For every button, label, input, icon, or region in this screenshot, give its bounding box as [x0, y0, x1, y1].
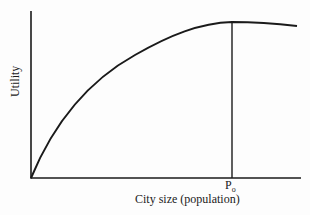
x-axis-label: City size (population)	[135, 192, 240, 207]
utility-curve	[31, 22, 297, 178]
p0-main: P	[225, 178, 232, 192]
utility-chart	[0, 0, 310, 215]
y-axis-label: Utility	[8, 66, 23, 97]
